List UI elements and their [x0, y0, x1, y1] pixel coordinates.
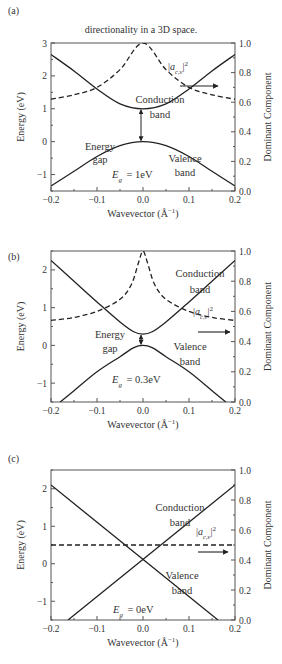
y2-tick-label: 0.4: [239, 337, 251, 347]
x-axis-label: Wavevector (Å−1): [107, 636, 178, 649]
y2-tick-label: 0.2: [239, 157, 251, 167]
y2-tick-label: 0.0: [239, 398, 251, 408]
panel-a: (a)−0.2−0.10.00.10.2Wavevector (Å−1)−101…: [8, 5, 273, 220]
x-tick-label: −0.1: [88, 624, 105, 634]
y2-tick-label: 1.0: [239, 39, 251, 49]
x-tick-label: −0.1: [88, 195, 105, 205]
band-structure-figure: directionality in a 3D space.(a)−0.2−0.1…: [0, 0, 282, 664]
y-tick-label: 2: [42, 71, 47, 81]
y-tick-label: −1: [37, 379, 47, 389]
x-axis-label: Wavevector (Å−1): [107, 418, 178, 431]
y2-tick-label: 0.4: [239, 127, 251, 137]
amplitude-curve: [51, 43, 235, 99]
valence-band-label-2: band: [180, 356, 201, 367]
y2-tick-label: 0.8: [239, 68, 251, 78]
y-tick-label: 1: [42, 522, 47, 532]
y-axis-label: Energy (eV): [15, 302, 27, 352]
amplitude-label: |ac,v|2: [193, 305, 213, 320]
y2-tick-label: 0.2: [239, 367, 251, 377]
x-tick-label: 0.0: [137, 624, 149, 634]
y2-tick-label: 0.6: [239, 526, 251, 536]
y2-tick-label: 0.6: [239, 307, 251, 317]
y-axis-label: Energy (eV): [15, 92, 27, 142]
y2-axis-label: Dominant Component: [262, 72, 273, 161]
conduction-band-label: Conduction: [136, 94, 186, 105]
y-tick-label: 2: [42, 484, 47, 494]
y2-tick-label: 1.0: [239, 466, 251, 476]
conduction-band-label: Conduction: [176, 268, 226, 279]
caption-text: directionality in a 3D space.: [85, 24, 197, 35]
y2-tick-label: 0.0: [239, 616, 251, 626]
x-tick-label: 0.0: [137, 406, 149, 416]
energy-gap-label: Energy: [95, 329, 126, 340]
x-tick-label: 0.2: [229, 624, 241, 634]
y-tick-label: −1: [37, 597, 47, 607]
y2-tick-label: 0.2: [239, 586, 251, 596]
panel-tag: (a): [8, 5, 19, 17]
amplitude-label: |ac,v|2: [196, 525, 216, 540]
energy-gap-label: Energy: [85, 141, 116, 152]
panel-b: (b)−0.2−0.10.00.10.2Wavevector (Å−1)−101…: [8, 247, 273, 432]
x-tick-label: 0.0: [137, 195, 149, 205]
y-tick-label: 2: [42, 265, 47, 275]
y2-tick-label: 0.4: [239, 556, 251, 566]
conduction-band-label-2: band: [150, 109, 171, 120]
valence-band-label: Valence: [165, 570, 199, 581]
gap-value-label: Eg = 0.3eV: [111, 374, 161, 389]
y-tick-label: 0: [42, 559, 47, 569]
y2-axis-label: Dominant Component: [262, 500, 273, 589]
x-tick-label: 0.1: [183, 195, 195, 205]
panel-tag: (c): [8, 453, 19, 465]
x-tick-label: 0.2: [229, 406, 241, 416]
x-tick-label: −0.2: [42, 195, 59, 205]
y2-tick-label: 0.0: [239, 187, 251, 197]
panel-tag: (b): [8, 251, 20, 263]
conduction-band-label: Conduction: [156, 502, 206, 513]
valence-band-label: Valence: [168, 153, 202, 164]
x-tick-label: 0.1: [183, 406, 195, 416]
y2-tick-label: 0.8: [239, 496, 251, 506]
y-tick-label: 0: [42, 341, 47, 351]
y2-tick-label: 0.8: [239, 277, 251, 287]
x-axis-label: Wavevector (Å−1): [107, 207, 178, 220]
x-tick-label: 0.2: [229, 195, 241, 205]
x-tick-label: −0.2: [42, 406, 59, 416]
y2-axis-label: Dominant Component: [262, 282, 273, 371]
x-tick-label: −0.2: [42, 624, 59, 634]
y2-tick-label: 1.0: [239, 247, 251, 257]
y2-tick-label: 0.6: [239, 98, 251, 108]
valence-band-label: Valence: [173, 341, 207, 352]
y-tick-label: 1: [42, 104, 47, 114]
conduction-band-label-2: band: [190, 284, 211, 295]
energy-gap-label-2: gap: [102, 343, 117, 354]
y-axis-label: Energy (eV): [15, 520, 27, 570]
y-tick-label: 3: [42, 39, 47, 49]
gap-value-label: Eg = 0eV: [112, 604, 154, 619]
panel-c: (c)−0.2−0.10.00.10.2Wavevector (Å−1)−101…: [8, 453, 273, 649]
y-tick-label: −1: [37, 170, 47, 180]
gap-value-label: Eg = 1eV: [111, 169, 153, 184]
y-tick-label: 0: [42, 137, 47, 147]
x-tick-label: −0.1: [88, 406, 105, 416]
amplitude-label: |ac,v|2: [168, 60, 188, 75]
valence-band-label-2: band: [172, 585, 193, 596]
x-tick-label: 0.1: [183, 624, 195, 634]
y-tick-label: 1: [42, 303, 47, 313]
valence-band-label-2: band: [175, 167, 196, 178]
conduction-band-label-2: band: [170, 517, 191, 528]
energy-gap-label-2: gap: [92, 154, 107, 165]
